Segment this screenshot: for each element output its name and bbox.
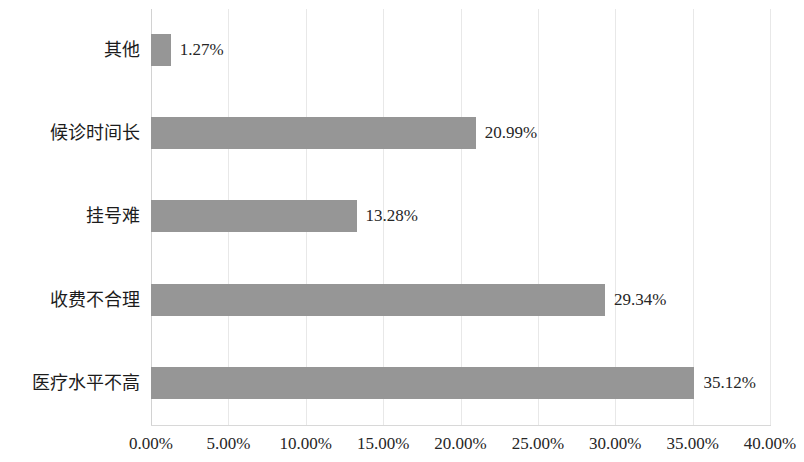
bar-row: 29.34% xyxy=(151,259,770,342)
x-tick-label: 0.00% xyxy=(129,432,173,456)
category-label-row: 医疗水平不高 xyxy=(0,342,151,425)
y-axis-category-labels: 其他候诊时间长挂号难收费不合理医疗水平不高 xyxy=(0,9,151,425)
x-tick-label: 15.00% xyxy=(357,432,409,456)
category-label-row: 其他 xyxy=(0,9,151,92)
x-tick-label: 25.00% xyxy=(512,432,564,456)
bar-value-label: 29.34% xyxy=(605,284,666,316)
x-axis-line xyxy=(151,425,771,426)
bar-value-label: 35.12% xyxy=(694,367,755,399)
category-label-row: 候诊时间长 xyxy=(0,92,151,175)
plot-area: 1.27%20.99%13.28%29.34%35.12% xyxy=(151,9,770,425)
bar-row: 35.12% xyxy=(151,342,770,425)
x-tick-label: 30.00% xyxy=(589,432,641,456)
bar-row: 1.27% xyxy=(151,9,770,92)
bar[interactable] xyxy=(151,200,357,232)
bar[interactable] xyxy=(151,367,694,399)
category-label: 其他 xyxy=(3,34,151,66)
category-label-row: 收费不合理 xyxy=(0,259,151,342)
gridline-40.00pct xyxy=(770,9,771,425)
x-tick-label: 35.00% xyxy=(666,432,718,456)
bar-value-label: 13.28% xyxy=(357,200,418,232)
category-label: 候诊时间长 xyxy=(3,117,151,149)
bar[interactable] xyxy=(151,117,476,149)
bar[interactable] xyxy=(151,34,171,66)
bar-chart: 1.27%20.99%13.28%29.34%35.12% 其他候诊时间长挂号难… xyxy=(0,0,804,462)
category-label: 挂号难 xyxy=(3,200,151,232)
x-tick-label: 20.00% xyxy=(434,432,486,456)
x-tick-label: 40.00% xyxy=(744,432,796,456)
bar[interactable] xyxy=(151,284,605,316)
category-label: 收费不合理 xyxy=(3,284,151,316)
category-label: 医疗水平不高 xyxy=(3,367,151,399)
x-tick-label: 10.00% xyxy=(280,432,332,456)
bar-value-label: 20.99% xyxy=(476,117,537,149)
x-axis-tick-labels: 0.00%5.00%10.00%15.00%20.00%25.00%30.00%… xyxy=(0,432,804,460)
x-tick-label: 5.00% xyxy=(206,432,250,456)
bar-row: 20.99% xyxy=(151,92,770,175)
bar-row: 13.28% xyxy=(151,175,770,258)
bar-value-label: 1.27% xyxy=(171,34,224,66)
category-label-row: 挂号难 xyxy=(0,175,151,258)
